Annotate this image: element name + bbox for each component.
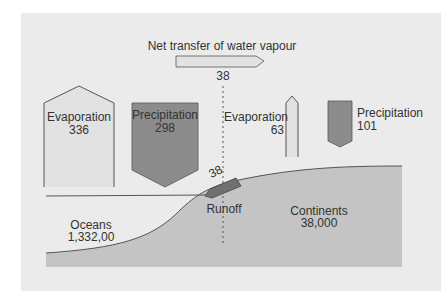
continents-value: 38,000 (286, 217, 352, 230)
sea-surface-line (46, 195, 207, 196)
runoff-label: Runoff (204, 203, 244, 216)
land-evaporation-value: 63 (224, 124, 284, 137)
net-transfer-title: Net transfer of water vapour (140, 40, 304, 53)
land-evaporation-arrow (286, 96, 298, 157)
land-precipitation-arrow (328, 101, 352, 147)
oceans-value: 1,332,00 (62, 231, 120, 244)
land-precipitation-value: 101 (357, 120, 377, 133)
net-transfer-value: 38 (205, 70, 241, 83)
net-transfer-arrow (176, 56, 264, 67)
ocean-precipitation-value: 298 (128, 122, 202, 135)
ocean-evaporation-value: 336 (44, 124, 114, 137)
